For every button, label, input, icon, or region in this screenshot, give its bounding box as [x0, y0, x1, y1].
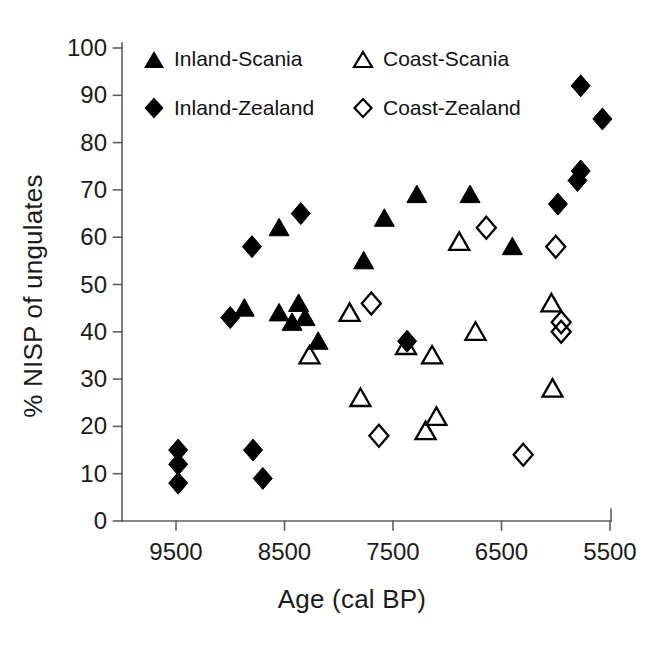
point-coast-scania: [340, 303, 360, 321]
point-inland-zealand: [242, 236, 261, 258]
y-tick-label: 100: [67, 34, 107, 61]
point-inland-scania: [269, 218, 289, 236]
x-tick-label: 6500: [475, 538, 528, 565]
point-inland-zealand: [221, 307, 240, 329]
y-tick-label: 50: [80, 271, 107, 298]
point-coast-scania: [541, 294, 561, 312]
point-coast-zealand: [514, 444, 533, 466]
point-coast-scania: [542, 379, 562, 397]
point-inland-scania: [407, 185, 427, 203]
legend-label-inland-scania: Inland-Scania: [174, 47, 302, 71]
legend-label-coast-scania: Coast-Scania: [383, 47, 509, 71]
y-tick-label: 40: [80, 318, 107, 345]
legend-item-coast-zealand: Coast-Zealand: [352, 96, 521, 120]
point-coast-zealand: [477, 217, 496, 239]
legend-label-coast-zealand: Coast-Zealand: [383, 96, 521, 120]
point-inland-scania: [502, 237, 522, 255]
point-coast-scania: [449, 232, 469, 250]
y-tick-label: 0: [94, 507, 107, 534]
y-tick-label: 60: [80, 223, 107, 250]
point-inland-scania: [460, 185, 480, 203]
y-tick-label: 80: [80, 129, 107, 156]
point-inland-zealand: [291, 203, 310, 225]
legend-item-inland-zealand: Inland-Zealand: [143, 96, 314, 120]
filled-triangle-icon: [143, 49, 165, 69]
point-inland-scania: [269, 303, 289, 321]
y-axis-title: % NISP of ungulates: [18, 174, 49, 417]
x-tick-label: 7500: [366, 538, 419, 565]
y-tick-label: 70: [80, 176, 107, 203]
point-inland-zealand: [593, 108, 612, 130]
y-tick-label: 20: [80, 412, 107, 439]
point-coast-zealand: [546, 236, 565, 258]
y-tick-label: 90: [80, 81, 107, 108]
x-axis-title: Age (cal BP): [278, 584, 426, 615]
x-tick-label: 8500: [258, 538, 311, 565]
point-coast-scania: [350, 389, 370, 407]
point-coast-scania: [422, 346, 442, 364]
point-inland-zealand: [253, 467, 272, 489]
point-coast-zealand: [362, 292, 381, 314]
point-inland-zealand: [571, 75, 590, 97]
point-inland-scania: [374, 209, 394, 227]
point-inland-zealand: [244, 439, 263, 461]
filled-diamond-icon: [143, 97, 165, 119]
point-inland-zealand: [169, 472, 188, 494]
x-tick-label: 9500: [149, 538, 202, 565]
point-inland-scania: [354, 251, 374, 269]
scatter-figure: 0102030405060708090100950085007500650055…: [0, 0, 668, 645]
point-inland-zealand: [548, 193, 567, 215]
y-tick-label: 10: [80, 460, 107, 487]
open-triangle-icon: [352, 49, 374, 69]
legend-item-inland-scania: Inland-Scania: [143, 47, 302, 71]
y-tick-label: 30: [80, 365, 107, 392]
point-coast-scania: [426, 407, 446, 425]
legend-item-coast-scania: Coast-Scania: [352, 47, 509, 71]
point-coast-zealand: [369, 425, 388, 447]
open-diamond-icon: [352, 97, 374, 119]
plot-canvas: 0102030405060708090100950085007500650055…: [0, 0, 668, 645]
x-tick-label: 5500: [583, 538, 636, 565]
point-inland-scania: [234, 299, 254, 317]
point-coast-scania: [465, 322, 485, 340]
legend-label-inland-zealand: Inland-Zealand: [174, 96, 314, 120]
